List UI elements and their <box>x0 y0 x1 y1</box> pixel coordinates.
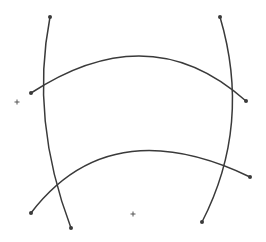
diagram-canvas <box>0 0 266 242</box>
start-point-dot <box>218 15 222 19</box>
curve-path <box>31 56 246 101</box>
curve-path <box>43 17 71 228</box>
end-point-dot <box>69 226 73 230</box>
curve-diagram <box>0 0 266 242</box>
cross-marker-icon <box>15 100 20 105</box>
curve-upper-arc <box>29 56 248 103</box>
start-point-dot <box>29 91 33 95</box>
start-point-dot <box>29 211 33 215</box>
curve-left-vertical <box>43 15 73 230</box>
cross-marker-icon <box>131 212 136 217</box>
end-point-dot <box>248 175 252 179</box>
end-point-dot <box>200 220 204 224</box>
curve-path <box>202 17 232 222</box>
curve-right-vertical <box>200 15 232 224</box>
curve-path <box>31 151 250 213</box>
start-point-dot <box>48 15 52 19</box>
end-point-dot <box>244 99 248 103</box>
